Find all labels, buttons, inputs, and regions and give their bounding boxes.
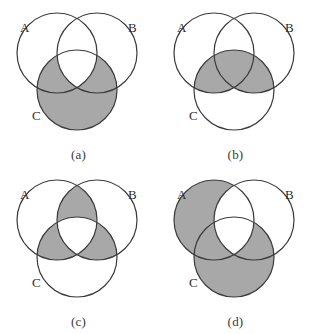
venn-diagram-figure: A B C (a) A B C xyxy=(0,0,314,334)
panel-caption-a: (a) xyxy=(0,147,157,163)
set-label-c: C xyxy=(189,275,198,290)
venn-panel-c: A B C (c) xyxy=(0,167,157,334)
set-label-b: B xyxy=(285,187,294,202)
set-label-c: C xyxy=(189,108,198,123)
set-label-a: A xyxy=(20,20,30,35)
panel-caption-d: (d) xyxy=(157,314,314,330)
set-label-a: A xyxy=(177,187,187,202)
panel-caption-c: (c) xyxy=(0,314,157,330)
venn-panel-b: A B C (b) xyxy=(157,0,314,167)
panel-caption-b: (b) xyxy=(157,147,314,163)
venn-svg-d: A B C xyxy=(157,167,314,334)
venn-panel-d: A B C (d) xyxy=(157,167,314,334)
set-label-a: A xyxy=(177,20,187,35)
set-label-b: B xyxy=(285,20,294,35)
set-label-b: B xyxy=(128,20,137,35)
venn-svg-c: A B C xyxy=(0,167,157,334)
set-label-c: C xyxy=(32,108,41,123)
set-label-b: B xyxy=(128,187,137,202)
set-label-a: A xyxy=(20,187,30,202)
venn-svg-b: A B C xyxy=(157,0,314,167)
venn-panel-a: A B C (a) xyxy=(0,0,157,167)
venn-svg-a: A B C xyxy=(0,0,157,167)
set-label-c: C xyxy=(32,275,41,290)
